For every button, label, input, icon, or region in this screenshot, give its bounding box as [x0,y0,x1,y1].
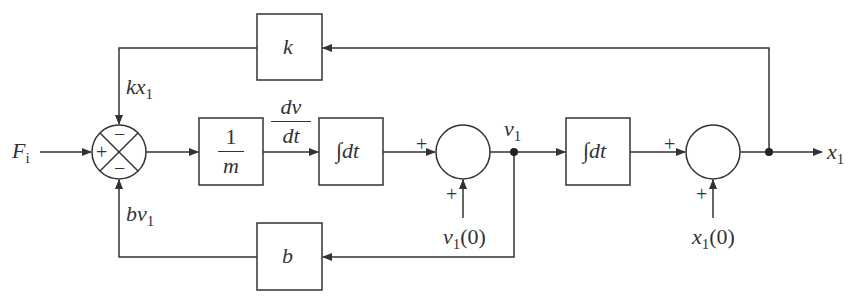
block-b-label: b [282,245,293,267]
sum3-plus-bottom: + [696,184,707,204]
block-k-label: k [283,36,293,58]
sum1-minus-bottom: − [114,158,125,178]
signal-label-bv1: bv1 [126,203,154,229]
signal-label-v1: v1 [504,118,521,144]
sum1-minus-top: − [114,124,125,144]
signal-label-kx1: kx1 [126,76,153,102]
sum2-plus-left: + [416,134,427,154]
sum2-plus-bottom: + [446,184,457,204]
summing-junction-3 [686,125,740,179]
junction-dot-x1 [765,148,773,156]
sum3-plus-left: + [664,134,675,154]
signal-label-x1-initial: x1(0) [692,226,735,252]
block-integrator-1-label: ∫dt [336,140,359,162]
signal-label-v1-initial: v1(0) [443,226,486,252]
sum1-plus-sign: + [96,142,107,162]
block-inv-m-label: 1 m [218,126,244,177]
output-label-x1: x1 [827,141,844,167]
input-label-fi: Fi [12,140,30,166]
summing-junction-2 [436,125,490,179]
junction-dot-v1 [510,148,518,156]
signal-label-dvdt: dv dt [271,96,311,147]
block-integrator-2-label: ∫dt [583,140,606,162]
